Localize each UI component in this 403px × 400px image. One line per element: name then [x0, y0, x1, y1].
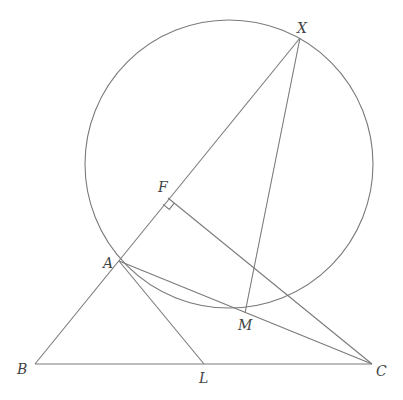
line-segments	[35, 38, 372, 364]
segment-bx	[35, 38, 300, 364]
segment-xm	[245, 38, 300, 313]
label-a: A	[101, 255, 113, 271]
label-f: F	[157, 179, 169, 195]
label-l: L	[198, 370, 208, 386]
segment-fc	[168, 198, 372, 364]
label-b: B	[16, 361, 27, 377]
label-c: C	[376, 363, 387, 379]
geometry-diagram: X F A M B L C	[0, 0, 403, 400]
segment-al	[119, 261, 204, 364]
label-x: X	[296, 20, 308, 36]
segment-ac	[119, 261, 372, 364]
label-m: M	[237, 317, 253, 333]
